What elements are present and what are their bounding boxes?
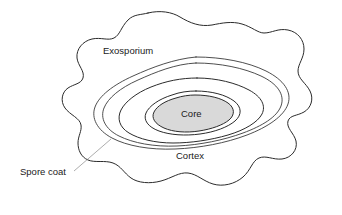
diagram-canvas: Exosporium Spore coat Cortex Core [0,0,342,215]
endospore-diagram: Exosporium Spore coat Cortex Core [0,0,342,215]
spore-coat-leader-line [74,139,111,171]
label-exosporium: Exosporium [103,45,153,56]
label-spore-coat: Spore coat [20,166,66,177]
label-cortex: Cortex [176,150,204,161]
label-core: Core [181,108,202,119]
